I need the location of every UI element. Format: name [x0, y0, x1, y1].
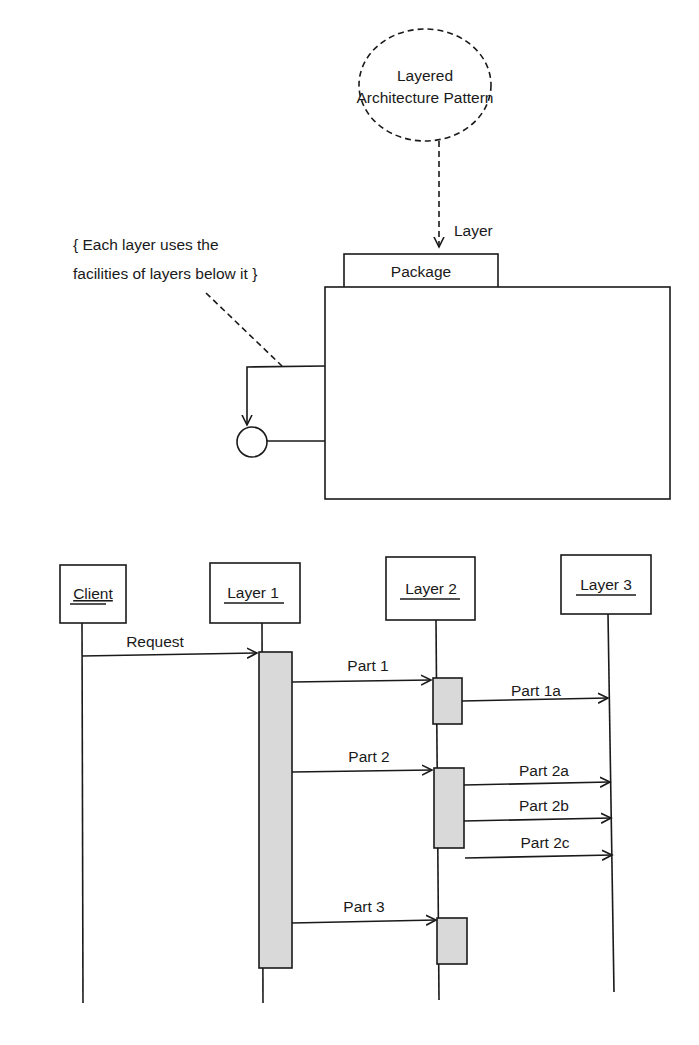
diagram-canvas: Layered Architecture Pattern Layer Packa…	[0, 0, 699, 1045]
message-part-2a: Part 2a	[464, 762, 610, 785]
message-label: Part 2b	[519, 797, 569, 814]
layer-arrow-label: Layer	[454, 222, 493, 239]
message-part-1: Part 1	[292, 657, 431, 682]
message-part-2c: Part 2c	[465, 834, 612, 858]
message-label: Part 1a	[511, 682, 561, 699]
pattern-name-line2: Architecture Pattern	[357, 89, 494, 106]
pattern-diagram: Layered Architecture Pattern Layer Packa…	[73, 29, 670, 499]
participant-layer-2: Layer 2	[386, 557, 475, 620]
message-label: Part 1	[347, 657, 388, 674]
layer-dependency-arrow: Layer	[439, 141, 493, 247]
participant-label: Client	[73, 585, 113, 602]
participant-label: Layer 2	[405, 580, 457, 597]
message-part-2b: Part 2b	[464, 797, 611, 821]
package-label: Package	[391, 263, 451, 280]
participant-label: Layer 1	[227, 584, 279, 601]
participant-label: Layer 3	[580, 576, 632, 593]
pattern-name-line1: Layered	[397, 67, 453, 84]
message-part-1a: Part 1a	[462, 682, 608, 701]
activation-layer-2-part1	[433, 678, 462, 724]
constraint-note: { Each layer uses the facilities of laye…	[73, 236, 282, 366]
message-label: Part 2	[348, 748, 389, 765]
activation-layer-2-part2	[434, 768, 464, 848]
participant-client: Client	[60, 565, 126, 623]
note-anchor-line	[206, 293, 282, 366]
message-label: Part 2a	[519, 762, 569, 779]
activation-layer-1	[259, 652, 292, 968]
note-line1: { Each layer uses the	[73, 236, 219, 253]
participant-layer-3: Layer 3	[561, 555, 651, 614]
interface-lollipop-icon	[237, 427, 267, 457]
sequence-diagram: Client Layer 1 Layer 2 Layer 3 Request	[60, 555, 651, 1003]
participant-layer-1: Layer 1	[210, 563, 300, 623]
message-label: Part 3	[343, 898, 384, 915]
pattern-ellipse: Layered Architecture Pattern	[357, 29, 494, 141]
package-shape: Package	[325, 254, 670, 499]
lifeline-client	[82, 623, 83, 1003]
message-label: Part 2c	[520, 834, 569, 851]
note-line2: facilities of layers below it }	[73, 265, 257, 282]
package-body	[325, 287, 670, 499]
message-request: Request	[82, 633, 257, 656]
message-label: Request	[126, 633, 184, 650]
lifeline-layer-3	[608, 614, 614, 992]
message-part-2: Part 2	[292, 748, 432, 772]
message-part-3: Part 3	[292, 898, 436, 923]
self-dependency-connector	[237, 366, 325, 457]
activation-layer-2-part3	[437, 918, 467, 964]
